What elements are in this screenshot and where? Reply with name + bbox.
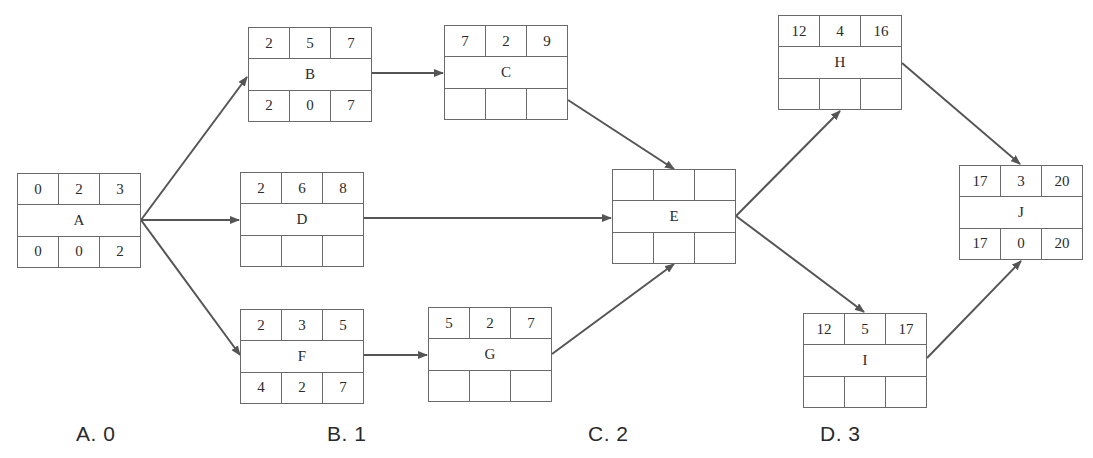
edge-g-e bbox=[552, 264, 674, 354]
node-j-float: 0 bbox=[1000, 229, 1041, 259]
node-j-ls: 17 bbox=[960, 229, 1000, 259]
node-f-ls: 4 bbox=[241, 373, 281, 403]
edge-e-i bbox=[736, 216, 864, 312]
node-a-lf: 2 bbox=[99, 237, 140, 267]
node-f-float: 2 bbox=[281, 373, 322, 403]
node-d-label: D bbox=[241, 204, 363, 234]
node-c-lf bbox=[526, 89, 567, 119]
node-c-es: 7 bbox=[445, 26, 485, 56]
node-j-lf: 20 bbox=[1041, 229, 1082, 259]
node-c-ls bbox=[445, 89, 485, 119]
node-h-duration: 4 bbox=[819, 16, 860, 46]
node-b-label: B bbox=[249, 59, 371, 89]
node-c-ef: 9 bbox=[526, 26, 567, 56]
node-a-ls: 0 bbox=[18, 237, 58, 267]
node-d-float bbox=[281, 236, 322, 266]
node-b-float: 0 bbox=[289, 91, 330, 121]
node-h-lf bbox=[860, 79, 901, 109]
node-d-ef: 8 bbox=[322, 173, 363, 203]
node-e-float bbox=[653, 233, 694, 263]
node-g-duration: 2 bbox=[469, 308, 510, 338]
node-f-duration: 3 bbox=[281, 310, 322, 340]
node-g-es: 5 bbox=[429, 308, 469, 338]
node-c: 729 C bbox=[444, 25, 568, 120]
node-e-ef bbox=[694, 170, 735, 200]
node-b-ef: 7 bbox=[330, 28, 371, 58]
node-a-float: 0 bbox=[58, 237, 99, 267]
edge-i-j bbox=[927, 261, 1021, 358]
node-b-es: 2 bbox=[249, 28, 289, 58]
node-e-ls bbox=[613, 233, 653, 263]
node-d-duration: 6 bbox=[281, 173, 322, 203]
node-j-ef: 20 bbox=[1041, 166, 1082, 196]
option-d[interactable]: D. 3 bbox=[820, 422, 861, 446]
node-j-duration: 3 bbox=[1000, 166, 1041, 196]
node-b: 257 B 207 bbox=[248, 27, 372, 122]
node-f-es: 2 bbox=[241, 310, 281, 340]
node-d-es: 2 bbox=[241, 173, 281, 203]
node-i-label: I bbox=[804, 345, 926, 375]
node-i-ef: 17 bbox=[885, 314, 926, 344]
option-a[interactable]: A. 0 bbox=[76, 422, 115, 446]
option-b[interactable]: B. 1 bbox=[327, 422, 366, 446]
node-d-ls bbox=[241, 236, 281, 266]
node-h-ef: 16 bbox=[860, 16, 901, 46]
node-i-ls bbox=[804, 377, 844, 407]
node-b-lf: 7 bbox=[330, 91, 371, 121]
edge-c-e bbox=[568, 100, 674, 169]
node-g-ls bbox=[429, 371, 469, 401]
node-a: 023 A 002 bbox=[17, 173, 141, 268]
node-e-lf bbox=[694, 233, 735, 263]
node-g-lf bbox=[510, 371, 551, 401]
node-a-duration: 2 bbox=[58, 174, 99, 204]
node-g-ef: 7 bbox=[510, 308, 551, 338]
node-e: E bbox=[612, 169, 736, 264]
edge-e-h bbox=[736, 111, 840, 216]
node-i-es: 12 bbox=[804, 314, 844, 344]
node-h: 12416 H bbox=[778, 15, 902, 110]
node-a-ef: 3 bbox=[99, 174, 140, 204]
node-e-es bbox=[613, 170, 653, 200]
node-i-lf bbox=[885, 377, 926, 407]
node-h-float bbox=[819, 79, 860, 109]
node-c-float bbox=[485, 89, 526, 119]
edge-a-b bbox=[141, 77, 247, 220]
node-f: 235 F 427 bbox=[240, 309, 364, 404]
node-h-label: H bbox=[779, 47, 901, 77]
node-e-label: E bbox=[613, 201, 735, 231]
node-e-duration bbox=[653, 170, 694, 200]
node-j-es: 17 bbox=[960, 166, 1000, 196]
node-i-duration: 5 bbox=[844, 314, 885, 344]
node-f-ef: 5 bbox=[322, 310, 363, 340]
node-g-float bbox=[469, 371, 510, 401]
node-f-lf: 7 bbox=[322, 373, 363, 403]
node-d-lf bbox=[322, 236, 363, 266]
node-b-ls: 2 bbox=[249, 91, 289, 121]
node-g: 527 G bbox=[428, 307, 552, 402]
option-c[interactable]: C. 2 bbox=[588, 422, 629, 446]
node-j: 17320 J 17020 bbox=[959, 165, 1083, 260]
edge-h-j bbox=[902, 63, 1020, 164]
node-c-duration: 2 bbox=[485, 26, 526, 56]
node-a-label: A bbox=[18, 205, 140, 235]
node-h-es: 12 bbox=[779, 16, 819, 46]
node-g-label: G bbox=[429, 339, 551, 369]
node-h-ls bbox=[779, 79, 819, 109]
node-i: 12517 I bbox=[803, 313, 927, 408]
node-c-label: C bbox=[445, 57, 567, 87]
node-a-es: 0 bbox=[18, 174, 58, 204]
edge-a-f bbox=[141, 220, 240, 355]
node-i-float bbox=[844, 377, 885, 407]
node-b-duration: 5 bbox=[289, 28, 330, 58]
node-f-label: F bbox=[241, 341, 363, 371]
node-d: 268 D bbox=[240, 172, 364, 267]
node-j-label: J bbox=[960, 197, 1082, 227]
